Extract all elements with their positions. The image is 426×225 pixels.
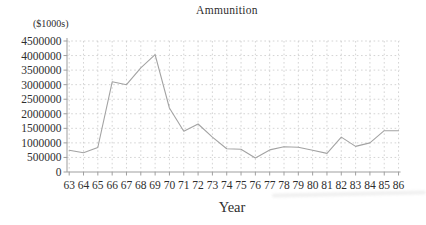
y-tick-label: 0: [56, 166, 62, 178]
axes: [67, 38, 401, 172]
y-tick-label: 1500000: [21, 122, 62, 134]
x-tick-label: 82: [336, 179, 348, 191]
y-tick-label: 4000000: [21, 50, 62, 62]
x-tick-label: 78: [278, 179, 290, 191]
x-tick-label: 65: [92, 179, 104, 191]
x-tick-label: 75: [235, 179, 247, 191]
x-tick-label: 67: [121, 179, 133, 191]
x-tick-label: 63: [63, 179, 75, 191]
x-tick-label: 86: [393, 179, 405, 191]
y-tick-label: 1000000: [21, 137, 62, 149]
y-tick-label: 2500000: [21, 93, 62, 105]
x-tick-label: 68: [135, 179, 147, 191]
x-axis-title: Year: [219, 199, 246, 216]
y-tick-label: 4500000: [21, 35, 62, 47]
x-tick-label: 81: [321, 179, 333, 191]
y-tick-label: 500000: [27, 151, 62, 163]
x-tick-label: 84: [364, 179, 376, 191]
y-tick-label: 3000000: [21, 79, 62, 91]
x-tick-label: 83: [350, 179, 362, 191]
x-tick-label: 85: [378, 179, 390, 191]
y-tick-label: 3500000: [21, 64, 62, 76]
x-tick-label: 73: [207, 179, 219, 191]
x-tick-label: 74: [221, 179, 233, 191]
x-tick-label: 72: [192, 179, 204, 191]
x-tick-label: 77: [264, 179, 276, 191]
chart: Ammunition ($1000s) 05000001000000150000…: [0, 0, 426, 225]
x-tick-label: 69: [149, 179, 161, 191]
x-tick-label: 80: [307, 179, 319, 191]
x-tick-label: 71: [178, 179, 190, 191]
tick-labels: 0500000100000015000002000000250000030000…: [21, 35, 404, 191]
x-tick-label: 79: [293, 179, 305, 191]
y-tick-label: 2000000: [21, 108, 62, 120]
tick-marks: [64, 41, 399, 176]
x-tick-label: 70: [164, 179, 176, 191]
x-tick-label: 64: [78, 179, 90, 191]
x-tick-label: 66: [106, 179, 118, 191]
gridlines: [67, 41, 400, 172]
x-tick-label: 76: [250, 179, 262, 191]
